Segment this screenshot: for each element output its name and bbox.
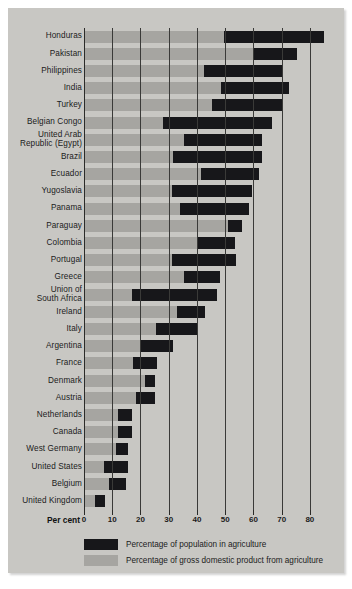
bar-gdp <box>84 478 109 490</box>
bar-gdp <box>84 168 201 180</box>
gridline-10 <box>112 28 113 510</box>
legend-swatch-gdp-icon <box>84 555 118 566</box>
bar-gdp <box>84 461 104 473</box>
gridline-60 <box>253 28 254 510</box>
tick-label-10: 10 <box>108 515 117 524</box>
bar-population <box>177 306 205 318</box>
category-label: Paraguay <box>46 222 82 231</box>
bar-population <box>253 48 297 60</box>
bar-gdp <box>84 185 172 197</box>
x-axis-ticks: 01020304050607080 <box>84 510 324 528</box>
bar-gdp <box>84 323 156 335</box>
bar-row <box>84 252 324 269</box>
bar-population <box>173 151 262 163</box>
bar-row <box>84 269 324 286</box>
bar-gdp <box>84 220 228 232</box>
bar-row <box>84 303 324 320</box>
bar-gdp <box>84 31 224 43</box>
bar-row <box>84 131 324 148</box>
category-label: France <box>56 359 82 368</box>
bar-row <box>84 372 324 389</box>
bar-row <box>84 166 324 183</box>
bar-population <box>184 271 219 283</box>
category-label: Denmark <box>48 377 82 386</box>
bar-population <box>184 134 262 146</box>
category-label: Italy <box>66 325 82 334</box>
bar-row <box>84 114 324 131</box>
bar-row <box>84 28 324 45</box>
bar-row <box>84 217 324 234</box>
category-label: Brazil <box>61 153 82 162</box>
bar-row <box>84 200 324 217</box>
bar-gdp <box>84 357 133 369</box>
chart-page: HondurasPakistanPhilippinesIndiaTurkeyBe… <box>0 0 352 589</box>
category-label: India <box>64 84 82 93</box>
legend-swatch-population-icon <box>84 539 118 550</box>
bar-rows <box>84 28 324 510</box>
bar-population <box>212 99 281 111</box>
bar-gdp <box>84 151 173 163</box>
gridline-50 <box>225 28 226 510</box>
bar-gdp <box>84 254 172 266</box>
category-label: Yugoslavia <box>41 187 82 196</box>
category-label: Panama <box>51 204 82 213</box>
bar-row <box>84 234 324 251</box>
bar-population <box>116 443 127 455</box>
bar-population <box>204 65 282 77</box>
tick-label-60: 60 <box>249 515 258 524</box>
bar-population <box>118 409 132 421</box>
category-label: Pakistan <box>50 50 82 59</box>
legend-label-population: Percentage of population in agriculture <box>126 540 266 549</box>
bar-row <box>84 492 324 509</box>
x-axis-title: Per cent <box>16 515 80 525</box>
gridline-30 <box>169 28 170 510</box>
legend-item-gdp: Percentage of gross domestic product fro… <box>84 555 336 566</box>
bar-row <box>84 406 324 423</box>
bar-population <box>132 289 217 301</box>
gridline-20 <box>140 28 141 510</box>
category-label: Canada <box>53 428 82 437</box>
tick-label-80: 80 <box>305 515 314 524</box>
category-label: Turkey <box>57 101 82 110</box>
bar-gdp <box>84 117 163 129</box>
bar-row <box>84 441 324 458</box>
bar-gdp <box>84 203 180 215</box>
bar-population <box>136 392 154 404</box>
bar-population <box>118 426 132 438</box>
bar-row <box>84 320 324 337</box>
gridline-40 <box>197 28 198 510</box>
tick-label-0: 0 <box>82 515 86 524</box>
chart-legend: Percentage of population in agriculture … <box>84 539 336 571</box>
gridline-80 <box>310 28 311 510</box>
y-axis-line <box>84 28 85 510</box>
legend-label-gdp: Percentage of gross domestic product fro… <box>126 556 323 565</box>
bar-row <box>84 286 324 303</box>
category-label: Austria <box>56 394 82 403</box>
category-label: Union ofSouth Africa <box>37 286 82 303</box>
tick-label-20: 20 <box>136 515 145 524</box>
bar-population <box>163 117 272 129</box>
bar-row <box>84 458 324 475</box>
bar-population <box>156 323 197 335</box>
tick-label-50: 50 <box>221 515 230 524</box>
bar-row <box>84 355 324 372</box>
category-label: Ireland <box>56 308 82 317</box>
bar-row <box>84 424 324 441</box>
category-label: Argentina <box>46 342 82 351</box>
bar-population <box>172 254 237 266</box>
bar-row <box>84 97 324 114</box>
category-label: Philippines <box>41 67 82 76</box>
bar-population <box>221 82 289 94</box>
bar-gdp <box>84 99 212 111</box>
bar-population <box>133 357 157 369</box>
bar-population <box>104 461 128 473</box>
category-label: United ArabRepublic (Egypt) <box>20 131 82 148</box>
bar-row <box>84 148 324 165</box>
category-label: Greece <box>55 273 82 282</box>
bar-gdp <box>84 375 145 387</box>
bar-population <box>95 495 105 507</box>
category-label: West Germany <box>26 445 82 454</box>
gridline-70 <box>282 28 283 510</box>
category-label: Belgian Congo <box>27 118 82 127</box>
category-label: Portugal <box>51 256 82 265</box>
